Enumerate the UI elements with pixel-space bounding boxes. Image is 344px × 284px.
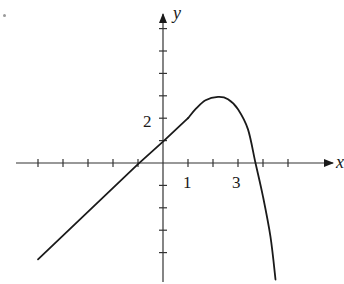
x-tick-label-1: 1 [183,174,192,191]
plot-area [0,0,344,284]
axes [16,14,333,282]
x-tick-label-3: 3 [232,174,241,191]
y-axis-label: y [173,4,181,22]
graph-figure: y x 2 1 3 [0,0,344,284]
linear-segment [38,118,188,259]
x-axis-label: x [336,153,344,171]
y-tick-label-2: 2 [143,113,152,130]
